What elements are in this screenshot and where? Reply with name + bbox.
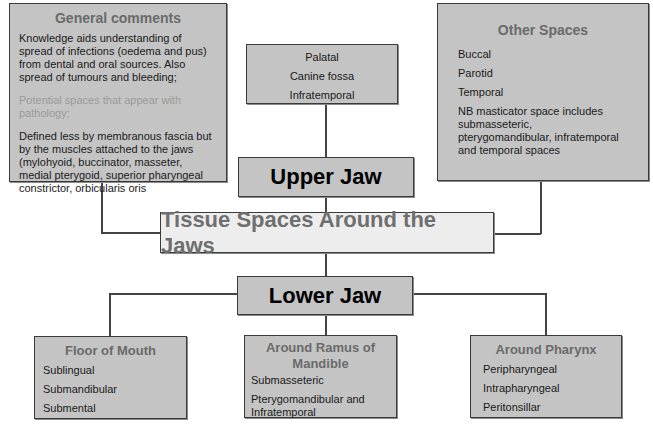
general-comments-box: General comments Knowledge aids understa… [9,3,227,182]
lower-space-item: Submandibular [43,383,178,396]
general-comments-para-1: Knowledge aids understanding of spread o… [19,32,217,84]
general-comments-para-2: Potential spaces that appear with pathol… [19,94,217,120]
connector-lower-left-v [109,293,111,336]
other-space-item: Parotid [458,67,628,80]
floor-of-mouth-box: Floor of Mouth Sublingual Submandibular … [34,336,187,419]
connector-other-to-title-v [540,181,542,234]
upper-space-item: Canine fossa [247,70,397,83]
around-ramus-heading: Around Ramus of Mandible [251,340,390,372]
lower-space-item: Intrapharyngeal [483,382,609,395]
general-comments-heading: General comments [19,10,217,26]
floor-of-mouth-heading: Floor of Mouth [43,343,178,358]
connector-lower-right-h [413,293,546,295]
connector-lower-left-h [109,293,237,295]
other-spaces-heading: Other Spaces [458,22,628,38]
connector-lower-right-v [545,293,547,335]
lower-space-item: Sublingual [43,364,178,377]
lower-space-item: Submasseteric [251,374,390,387]
upper-space-item: Infratemporal [247,89,397,102]
diagram-title: Tissue Spaces Around the Jaws [160,212,494,253]
around-ramus-box: Around Ramus of Mandible Submasseteric P… [244,335,397,418]
other-space-item: Buccal [458,48,628,61]
lower-space-item: Peritonsillar [483,401,609,414]
general-comments-para-3: Defined less by membranous fascia but by… [19,130,217,195]
around-pharynx-box: Around Pharynx Peripharyngeal Intraphary… [470,335,622,418]
lower-space-item: Pterygomandibular and Infratemporal [251,393,390,419]
other-spaces-box: Other Spaces Buccal Parotid Temporal NB … [437,3,649,181]
upper-jaw-spaces-box: Palatal Canine fossa Infratemporal [246,44,398,104]
connector-general-to-title-h [101,232,160,234]
connector-other-to-title-h [494,233,541,235]
lower-jaw-box: Lower Jaw [237,276,413,315]
upper-space-item: Palatal [247,51,397,64]
upper-jaw-box: Upper Jaw [238,157,414,197]
lower-space-item: Submental [43,402,178,415]
other-space-item: Temporal [458,86,628,99]
other-space-note: NB masticator space includes submasseter… [458,105,628,157]
connector-palatal-to-upper [325,104,327,157]
around-pharynx-heading: Around Pharynx [483,342,609,357]
lower-space-item: Peripharyngeal [483,363,609,376]
connector-lower-to-ramus [325,315,327,335]
